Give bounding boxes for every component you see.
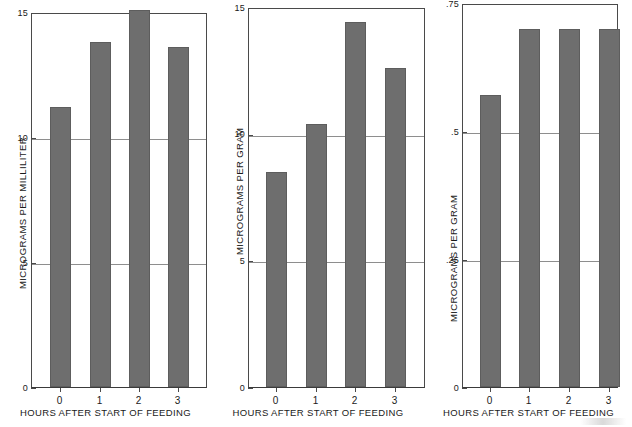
y-tick-label: .5 [425, 128, 459, 137]
bar [50, 107, 71, 387]
x-tick-label: 2 [554, 396, 584, 406]
y-axis-title: MICROGRAMS PER GRAM [234, 128, 245, 255]
x-axis-title: HOURS AFTER START OF FEEDING [425, 407, 632, 418]
bar [345, 22, 366, 387]
bar [129, 10, 150, 388]
x-tick-mark [569, 388, 570, 392]
bar [90, 42, 111, 387]
x-tick-label: 1 [301, 396, 331, 406]
y-tick-mark [248, 135, 253, 136]
x-tick-mark [139, 388, 140, 392]
bar [559, 29, 580, 387]
y-tick-label: 15 [211, 4, 245, 13]
y-axis-title: MICROGRAMS PER GRAM [448, 195, 459, 322]
x-tick-label: 1 [85, 396, 115, 406]
y-tick-mark [462, 132, 467, 133]
y-tick-mark [31, 138, 36, 139]
y-tick-label: 0 [211, 384, 245, 393]
y-tick-mark [31, 388, 36, 389]
x-tick-mark [316, 388, 317, 392]
plot-area-1 [31, 13, 207, 388]
x-tick-label: 0 [261, 396, 291, 406]
scan-artifact [580, 418, 626, 425]
y-tick-mark [248, 8, 253, 9]
bar-chart-figure: 15 10 5 0 0 1 2 3 MICROGRAMS PER MILLILI… [0, 0, 632, 427]
chart-panel-2: 15 10 5 0 0 1 2 3 MICROGRAMS PER GRAM HO… [211, 0, 425, 427]
y-tick-label: 5 [211, 257, 245, 266]
x-tick-mark [395, 388, 396, 392]
chart-panel-1: 15 10 5 0 0 1 2 3 MICROGRAMS PER MILLILI… [0, 0, 211, 427]
y-tick-mark [31, 13, 36, 14]
x-tick-mark [178, 388, 179, 392]
x-tick-mark [276, 388, 277, 392]
x-axis-title: HOURS AFTER START OF FEEDING [0, 407, 211, 418]
y-tick-mark [462, 260, 467, 261]
y-tick-mark [248, 388, 253, 389]
y-tick-label: 0 [0, 384, 28, 393]
bar [599, 29, 620, 387]
plot-area-3 [462, 4, 618, 388]
x-tick-mark [529, 388, 530, 392]
x-tick-label: 3 [380, 396, 410, 406]
x-tick-mark [609, 388, 610, 392]
y-tick-label: .75 [425, 0, 459, 9]
x-tick-label: 0 [45, 396, 75, 406]
bar [385, 68, 406, 387]
x-tick-mark [355, 388, 356, 392]
x-tick-label: 3 [594, 396, 624, 406]
bar [266, 172, 287, 387]
bar [168, 47, 189, 387]
y-tick-mark [462, 388, 467, 389]
y-tick-label: 15 [0, 9, 28, 18]
x-tick-label: 2 [340, 396, 370, 406]
y-tick-mark [31, 263, 36, 264]
y-tick-mark [462, 4, 467, 5]
bar [480, 95, 501, 387]
x-tick-mark [60, 388, 61, 392]
chart-panel-3: .75 .5 .25 0 0 1 2 3 MICROGRAMS PER GRAM… [425, 0, 632, 427]
x-tick-label: 2 [124, 396, 154, 406]
x-tick-label: 1 [514, 396, 544, 406]
bar [306, 124, 327, 387]
x-tick-label: 0 [475, 396, 505, 406]
y-tick-label: 0 [425, 384, 459, 393]
x-tick-mark [490, 388, 491, 392]
x-axis-title: HOURS AFTER START OF FEEDING [211, 407, 425, 418]
y-tick-mark [248, 261, 253, 262]
y-axis-title: MICROGRAMS PER MILLILITER [17, 137, 28, 289]
plot-area-2 [248, 8, 425, 388]
x-tick-label: 3 [163, 396, 193, 406]
x-tick-mark [100, 388, 101, 392]
bar [519, 29, 540, 387]
